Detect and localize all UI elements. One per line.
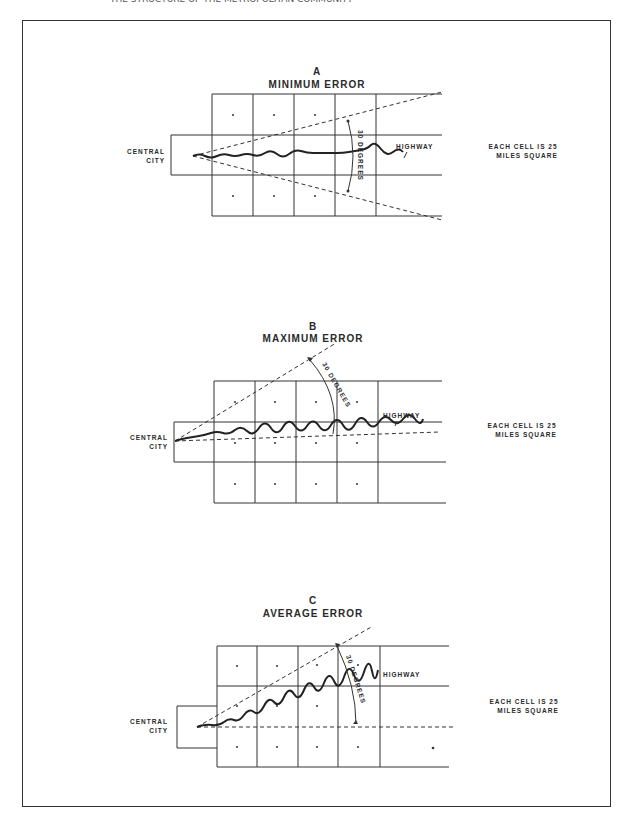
panel-b-lower-bound-line [175, 432, 440, 441]
panel-a-angle-arc [348, 121, 353, 191]
panel-a-grid [171, 94, 442, 216]
panel-c-angle-label: 30 DEGREES [345, 654, 367, 705]
panel-b-letter: B [309, 321, 317, 332]
panel-b-origin-label-2: CITY [149, 443, 168, 450]
panel-a-scale-note-1: EACH CELL IS 25 [488, 143, 557, 150]
panel-b: B MAXIMUM ERROR 30 DEGREES HIGHWAY CENTR… [130, 321, 557, 503]
panel-a-highway-label: HIGHWAY [396, 143, 433, 150]
panel-c-grid [177, 646, 449, 767]
panel-b-title: MAXIMUM ERROR [263, 333, 364, 344]
panel-c-scale-note-1: EACH CELL IS 25 [489, 698, 558, 705]
diagram-canvas: A MINIMUM ERROR 30 DEGREES HIGHWAY [0, 0, 635, 825]
panel-a: A MINIMUM ERROR 30 DEGREES HIGHWAY [127, 66, 558, 220]
panel-c-scale-note-2: MILES SQUARE [497, 707, 558, 715]
panel-c-letter: C [309, 595, 317, 606]
page-header-partial: THE STRUCTURE OF THE METROPOLITAN COMMUN… [110, 0, 430, 4]
panel-b-scale-note-1: EACH CELL IS 25 [487, 422, 556, 429]
panel-a-origin-label-1: CENTRAL [127, 148, 165, 155]
panel-a-letter: A [313, 66, 321, 77]
panel-a-origin-label-2: CITY [146, 157, 165, 164]
panel-b-grid [174, 381, 446, 503]
panel-c-title: AVERAGE ERROR [263, 608, 364, 619]
panel-a-angle-label: 30 DEGREES [357, 130, 364, 181]
panel-a-scale-note-2: MILES SQUARE [496, 152, 557, 160]
panel-b-highway-label: HIGHWAY [383, 412, 420, 419]
panel-b-origin-label-1: CENTRAL [130, 434, 168, 441]
panel-c-origin-label-1: CENTRAL [130, 718, 168, 725]
panel-c-upper-bound-line [197, 626, 373, 727]
panel-a-lower-bound-line [193, 156, 442, 220]
panel-c: C AVERAGE ERROR 30 DEGREES HIGHWAY [130, 595, 559, 767]
panel-a-title: MINIMUM ERROR [269, 79, 366, 90]
panel-a-highway [193, 144, 403, 158]
panel-b-scale-note-2: MILES SQUARE [495, 431, 556, 439]
panel-c-highway-label: HIGHWAY [383, 671, 420, 678]
panel-c-origin-label-2: CITY [149, 727, 168, 734]
